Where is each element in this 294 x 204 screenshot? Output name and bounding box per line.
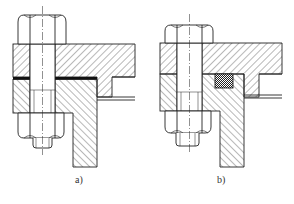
flange-joint-gasket-drawing [0,0,147,204]
figure-panel-a: a) [0,0,147,204]
figure-panel-b: b) [147,0,294,204]
packing-ring [215,74,233,88]
panel-a-label: a) [75,174,83,185]
panel-b-label: b) [217,174,225,185]
